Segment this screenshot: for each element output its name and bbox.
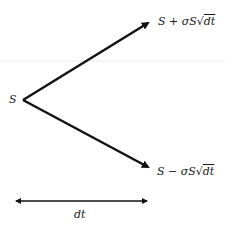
- up-node-prefix: S + σS: [158, 15, 197, 28]
- up-node-radicand: dt: [204, 15, 215, 28]
- down-node-radicand: dt: [203, 165, 214, 178]
- sqrt-icon: √: [196, 165, 203, 178]
- binomial-tree-canvas: [0, 0, 225, 229]
- down-node-prefix: S − σS: [157, 165, 196, 178]
- root-node-label: S: [9, 94, 17, 105]
- down-node-label: S − σS√dt: [157, 166, 214, 177]
- sqrt-icon: √: [197, 15, 204, 28]
- time-step-label: dt: [74, 209, 85, 220]
- up-node-label: S + σS√dt: [158, 16, 215, 27]
- down-branch-arrow: [23, 100, 148, 167]
